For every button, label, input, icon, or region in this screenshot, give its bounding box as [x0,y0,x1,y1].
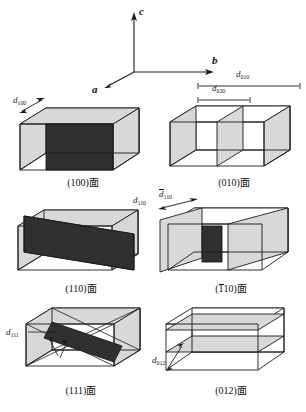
spacing-label-d010: d010 [236,70,249,79]
caption-panel-111: (111)面 [6,386,156,396]
caption-panel-012: (012)面 [156,386,306,396]
plane-dark-center [202,226,222,262]
caption-panel-010: (010)面 [164,178,304,188]
plane-dark-100 [46,124,113,170]
spacing-label-d020: d020 [212,84,225,93]
caption-panel-100: (100)面 [8,178,158,188]
axis-triad [0,0,306,88]
axis-label-c: c [139,6,144,17]
spacing-label-d1bar10: d110 [159,190,172,199]
panel-111-graphic [6,300,156,395]
spacing-label-d110: d110 [133,196,146,205]
plane-010-left [170,106,196,166]
axis-label-a: a [92,84,98,95]
a-axis-arrowhead [103,83,112,88]
caption-panel-1bar10: (110)面 [156,284,306,294]
crystal-planes-figure: c b a d010 d020 [0,0,306,412]
panel-1bar10-graphic [156,196,306,291]
axis-label-b: b [212,55,218,66]
spacing-label-d012: d012 [152,356,165,365]
caption-panel-110: (110)面 [6,284,156,294]
panel-012-graphic [156,300,306,395]
spacing-label-d111: d111 [6,328,19,337]
panel-110-graphic [6,196,156,291]
plane-left-light [160,208,202,272]
a-axis-line [108,72,134,86]
spacing-label-d100: d100 [13,96,26,105]
